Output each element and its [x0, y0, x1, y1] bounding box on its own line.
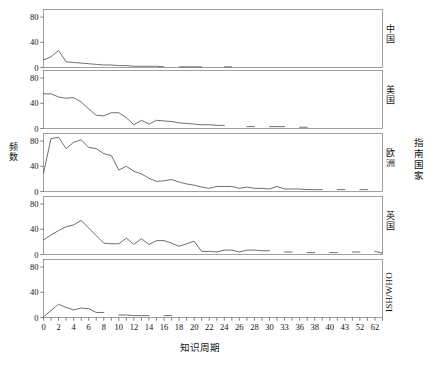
- x-tick-label: 62: [371, 322, 380, 332]
- x-tick-label: 30: [265, 322, 274, 332]
- panel-label-text: 中: [384, 24, 397, 35]
- y-tick-label: 40: [30, 287, 39, 297]
- y-tick-label: 0: [34, 187, 38, 197]
- x-tick-label: 6: [87, 322, 91, 332]
- panel-label-china: 中国: [384, 24, 397, 45]
- y-tick-label: 40: [30, 161, 39, 171]
- x-tick-label: 20: [190, 322, 199, 332]
- y-tick-label: 40: [30, 98, 39, 108]
- panel-label-usa: 美国: [384, 85, 397, 106]
- panel-label-text: ISH/WHO: [384, 266, 395, 318]
- y-tick-label: 40: [30, 37, 39, 47]
- y-tick-label: 0: [34, 63, 38, 73]
- x-tick-label: 18: [175, 322, 184, 332]
- panel-label-text: 美: [384, 85, 397, 96]
- y-tick-label: 0: [34, 313, 38, 323]
- x-tick-label: 33: [280, 322, 289, 332]
- x-tick-label: 8: [102, 322, 106, 332]
- panel-label-text: 国: [384, 221, 397, 232]
- panel-label-uk: 英国: [384, 211, 397, 232]
- y-tick-label: 80: [30, 199, 39, 209]
- x-axis-title: 知识周期: [0, 340, 400, 354]
- panel-label-text: 英: [384, 211, 397, 222]
- chart-panel: 04080: [30, 134, 383, 197]
- chart-panel: 04080: [30, 10, 383, 73]
- y-tick-label: 0: [34, 250, 38, 260]
- panel-label-europe: 欧洲: [384, 148, 397, 169]
- x-tick-label: 43: [341, 322, 350, 332]
- chart-panel: 04080: [30, 260, 383, 323]
- y-tick-label: 40: [30, 224, 39, 234]
- chart-panel: 04080: [30, 71, 383, 134]
- x-tick-label: 22: [205, 322, 214, 332]
- x-tick-label: 4: [72, 322, 77, 332]
- x-tick-label: 10: [115, 322, 124, 332]
- panel-label-text: 国: [384, 34, 397, 45]
- panel-label-text: 国: [384, 95, 397, 106]
- y-tick-label: 0: [34, 124, 38, 134]
- x-tick-label: 16: [160, 322, 169, 332]
- y-tick-label: 80: [30, 73, 39, 83]
- x-tick-label: 0: [41, 322, 45, 332]
- x-tick-label: 28: [250, 322, 259, 332]
- panel-label-ish-who: ISH/WHO: [384, 266, 397, 318]
- x-tick-label: 14: [145, 322, 154, 332]
- chart-plot-area: 0408004080040800408004080024681012141618…: [0, 0, 438, 366]
- x-tick-label: 24: [220, 322, 229, 332]
- x-tick-label: 38: [310, 322, 319, 332]
- x-tick-label: 26: [235, 322, 244, 332]
- y-tick-label: 80: [30, 12, 39, 22]
- chart-figure: 频数 0408004080040800408004080024681012141…: [0, 0, 438, 366]
- chart-panel: 04080: [30, 197, 383, 260]
- x-tick-label: 36: [295, 322, 304, 332]
- x-axis: 0246810121416182022242628303336384043526…: [41, 318, 382, 332]
- panel-label-text: 洲: [384, 158, 397, 169]
- x-tick-label: 2: [56, 322, 60, 332]
- x-tick-label: 52: [356, 322, 365, 332]
- y-tick-label: 80: [30, 262, 39, 272]
- y-tick-label: 80: [30, 136, 39, 146]
- x-tick-label: 40: [326, 322, 335, 332]
- facet-group-label-text: 指南国家: [412, 138, 426, 182]
- x-tick-label: 12: [130, 322, 139, 332]
- panel-label-text: 欧: [384, 148, 397, 159]
- facet-group-label: 指南国家: [412, 138, 426, 182]
- x-axis-title-text: 知识周期: [180, 343, 220, 353]
